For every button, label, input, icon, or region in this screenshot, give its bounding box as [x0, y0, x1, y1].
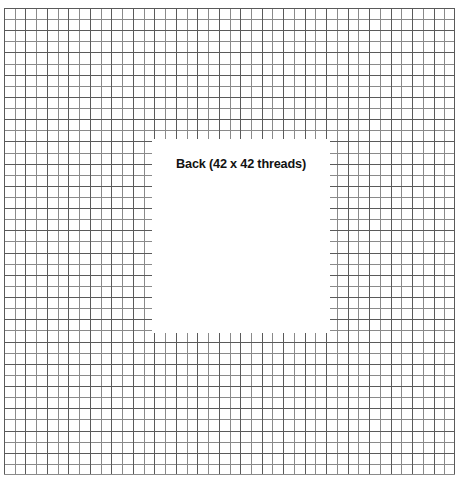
back-panel-region: Back (42 x 42 threads)	[152, 139, 330, 333]
thread-grid-diagram: Back (42 x 42 threads)	[0, 0, 459, 486]
thread-grid-right-edge	[454, 8, 455, 475]
thread-grid-bottom-edge	[4, 474, 455, 475]
back-panel-label: Back (42 x 42 threads)	[157, 156, 324, 171]
